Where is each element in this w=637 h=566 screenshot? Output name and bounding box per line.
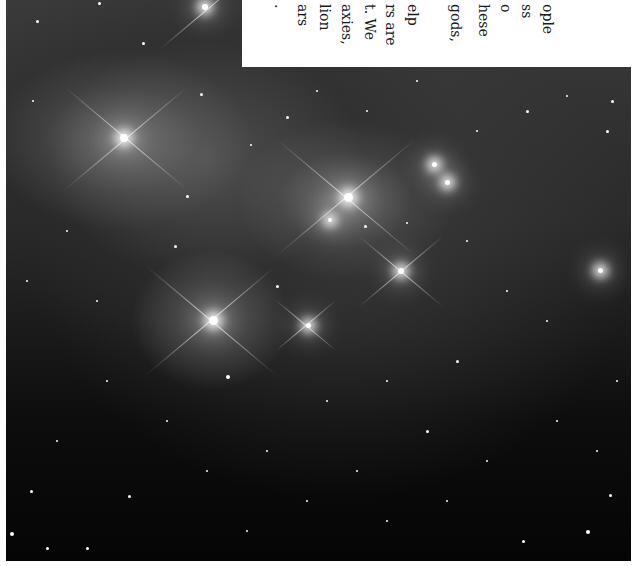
bright-star: [328, 218, 332, 222]
bright-star: [445, 180, 450, 185]
text-line: ople: [541, 4, 555, 34]
text-line: ss: [520, 4, 534, 18]
bright-star: [432, 162, 437, 167]
text-line: lion: [318, 4, 332, 30]
text-line: elp: [406, 4, 420, 26]
bright-star: [598, 268, 603, 273]
text-line: t. We: [363, 4, 377, 40]
text-line: axies,: [340, 4, 354, 45]
text-line: ars: [296, 4, 310, 26]
text-line: hese: [477, 4, 491, 37]
text-overlay-box: ople ss o hese gods, elp rs are t. We ax…: [242, 0, 637, 67]
text-line: rs are: [384, 4, 398, 46]
text-line: o: [499, 4, 513, 12]
text-line: gods,: [449, 4, 463, 42]
text-line: .: [273, 4, 287, 8]
starfield-photo: [6, 0, 631, 561]
